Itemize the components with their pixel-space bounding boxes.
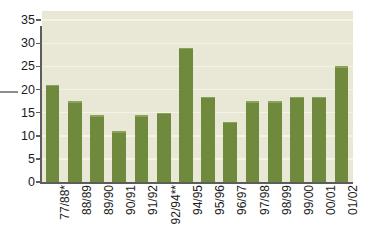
bar-top-highlight bbox=[312, 97, 326, 99]
y-tick-mark bbox=[36, 158, 41, 160]
bar bbox=[179, 48, 193, 182]
bar-top-highlight bbox=[90, 115, 104, 117]
bar bbox=[246, 101, 260, 182]
x-axis: 77/88*88/8989/9090/9191/9292/94**94/9595… bbox=[42, 185, 353, 249]
x-tick-label: 94/95 bbox=[191, 185, 205, 215]
y-tick-mark bbox=[36, 43, 41, 45]
y-axis: 05101520253035 bbox=[0, 0, 40, 249]
x-tick-label: 92/94** bbox=[169, 185, 183, 224]
y-tick-label: 0 bbox=[28, 175, 35, 189]
x-tick-label: 01/02 bbox=[346, 185, 360, 215]
bar-top-highlight bbox=[112, 131, 126, 133]
x-tick-label: 77/88* bbox=[58, 185, 72, 220]
bar-top-highlight bbox=[201, 97, 215, 99]
bar-top-highlight bbox=[135, 115, 149, 117]
y-tick-mark bbox=[36, 135, 41, 137]
bar bbox=[46, 85, 60, 182]
bar bbox=[201, 97, 215, 183]
x-tick-label: 91/92 bbox=[146, 185, 160, 215]
bar-top-highlight bbox=[157, 113, 171, 115]
x-tick-label: 96/97 bbox=[235, 185, 249, 215]
y-tick-label: 15 bbox=[21, 106, 35, 120]
x-tick-label: 90/91 bbox=[124, 185, 138, 215]
y-tick-mark bbox=[36, 19, 41, 21]
x-tick-label: 98/99 bbox=[280, 185, 294, 215]
bar-top-highlight bbox=[179, 48, 193, 50]
bars-group bbox=[42, 11, 353, 182]
bar bbox=[290, 97, 304, 183]
x-tick-label: 97/98 bbox=[258, 185, 272, 215]
x-tick-label: 00/01 bbox=[324, 185, 338, 215]
y-tick-label: 30 bbox=[21, 36, 35, 50]
bar bbox=[157, 113, 171, 182]
bar bbox=[335, 66, 349, 182]
bar bbox=[312, 97, 326, 183]
y-tick-label: 10 bbox=[21, 129, 35, 143]
x-tick-label: 99/00 bbox=[302, 185, 316, 215]
y-tick-label: 5 bbox=[28, 152, 35, 166]
x-tick-label: 89/90 bbox=[102, 185, 116, 215]
y-tick-label: 25 bbox=[21, 59, 35, 73]
bar-top-highlight bbox=[246, 101, 260, 103]
bar bbox=[223, 122, 237, 182]
y-tick-mark bbox=[36, 181, 41, 183]
bar-top-highlight bbox=[223, 122, 237, 124]
y-tick-mark bbox=[36, 112, 41, 114]
y-tick-label: 35 bbox=[21, 13, 35, 27]
bar bbox=[268, 101, 282, 182]
bar-top-highlight bbox=[268, 101, 282, 103]
bar-top-highlight bbox=[46, 85, 60, 87]
y-tick-mark bbox=[36, 66, 41, 68]
bar-top-highlight bbox=[335, 66, 349, 68]
bar bbox=[68, 101, 82, 182]
bar-chart: 05101520253035 77/88*88/8989/9090/9191/9… bbox=[0, 0, 367, 249]
bar bbox=[135, 115, 149, 182]
x-tick-label: 88/89 bbox=[80, 185, 94, 215]
x-axis-line bbox=[40, 182, 353, 184]
bar bbox=[112, 131, 126, 182]
x-tick-label: 95/96 bbox=[213, 185, 227, 215]
bar bbox=[90, 115, 104, 182]
bar-top-highlight bbox=[290, 97, 304, 99]
bar-top-highlight bbox=[68, 101, 82, 103]
y-tick-mark bbox=[36, 89, 41, 91]
y-tick-label: 20 bbox=[21, 83, 35, 97]
plot-area bbox=[42, 11, 353, 182]
